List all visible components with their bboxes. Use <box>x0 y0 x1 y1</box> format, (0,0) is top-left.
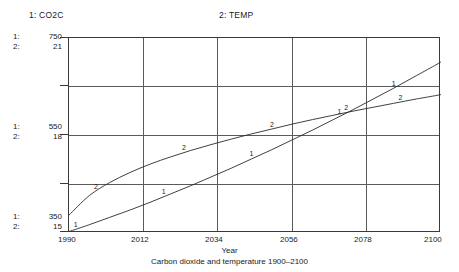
svg-text:1: 1 <box>250 150 254 157</box>
y-axis-key-2-top: 2: <box>13 42 23 52</box>
svg-text:2: 2 <box>182 144 186 151</box>
series-curve-temp <box>69 95 441 216</box>
svg-text:2: 2 <box>94 183 98 190</box>
y-axis-value-1-top: 750 <box>28 32 62 42</box>
y-axis-value-2-bottom: 15 <box>28 222 62 232</box>
svg-text:1: 1 <box>162 188 166 195</box>
y-axis-key-1-bottom: 1: <box>13 212 23 222</box>
x-axis-tick-label-2: 2034 <box>205 235 223 244</box>
y-axis-label-group-bottom: 1: 350 2: 15 <box>0 212 68 232</box>
y-axis-label-group-middle: 1: 550 2: 18 <box>0 122 68 142</box>
svg-text:2: 2 <box>344 104 348 111</box>
svg-text:2: 2 <box>398 94 402 101</box>
y-axis-value-1-bottom: 350 <box>28 212 62 222</box>
x-axis-tick-label-3: 2056 <box>280 235 298 244</box>
svg-text:1: 1 <box>338 108 342 115</box>
y-axis-key-1-middle: 1: <box>13 122 23 132</box>
series-curves: 11111 22222 <box>69 38 441 233</box>
chart-canvas: 1: CO2C 2: TEMP 1: 750 2: 21 1: 550 2: 1… <box>0 0 459 272</box>
y-axis-label-group-top: 1: 750 2: 21 <box>0 32 68 52</box>
series-curve-co2c <box>69 62 441 232</box>
series-markers-co2c: 11111 <box>74 80 396 228</box>
x-axis-tick-label-0: 1990 <box>58 235 76 244</box>
x-axis-tick-label-4: 2078 <box>354 235 372 244</box>
svg-text:2: 2 <box>270 121 274 128</box>
svg-text:1: 1 <box>392 80 396 87</box>
svg-text:1: 1 <box>74 221 78 228</box>
y-axis-value-2-top: 21 <box>28 42 62 52</box>
x-axis-tick-label-1: 2012 <box>131 235 149 244</box>
chart-caption: Carbon dioxide and temperature 1900–2100 <box>0 257 459 266</box>
y-axis-key-2-bottom: 2: <box>13 222 23 232</box>
y-axis-value-1-middle: 550 <box>28 122 62 132</box>
y-axis-key-2-middle: 2: <box>13 132 23 142</box>
x-axis-tick-label-5: 2100 <box>424 235 442 244</box>
x-axis-title: Year <box>0 246 459 255</box>
plot-area: 11111 22222 <box>68 37 440 232</box>
legend-series-2: 2: TEMP <box>219 10 253 20</box>
y-axis-key-1-top: 1: <box>13 32 23 42</box>
legend-series-1: 1: CO2C <box>29 10 63 20</box>
y-axis-value-2-middle: 18 <box>28 132 62 142</box>
